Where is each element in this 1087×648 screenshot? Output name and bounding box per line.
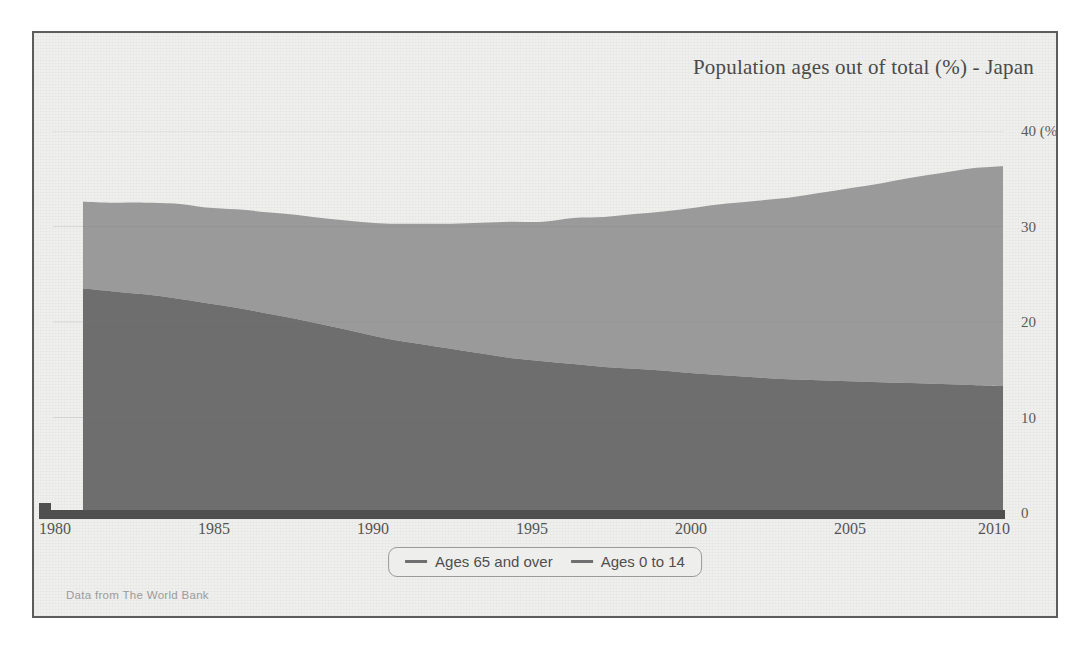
source-attribution: Data from The World Bank: [66, 589, 209, 601]
x-axis-baseline: [39, 510, 1005, 519]
y-axis-tick: 0: [1021, 505, 1029, 522]
stacked-area-plot: [51, 131, 1006, 513]
chart-title: Population ages out of total (%) - Japan: [693, 55, 1034, 80]
x-axis-tick: 1990: [357, 520, 389, 538]
legend-item-ages-0-to-14[interactable]: Ages 0 to 14: [571, 553, 685, 570]
x-axis: 1980 1985 1990 1995 2000 2005 2010: [34, 520, 1056, 544]
legend-item-label: Ages 0 to 14: [601, 553, 685, 570]
legend-line-icon: [571, 560, 593, 563]
chart-legend: Ages 65 and over Ages 0 to 14: [388, 547, 702, 577]
y-axis-tick: 40 (%): [1021, 123, 1058, 140]
x-axis-tick: 2000: [675, 520, 707, 538]
legend-line-icon: [405, 560, 427, 563]
chart-frame: Population ages out of total (%) - Japan…: [32, 31, 1058, 618]
plot-area: [51, 131, 1006, 513]
legend-item-label: Ages 65 and over: [435, 553, 553, 570]
y-axis-tick: 10: [1021, 409, 1036, 426]
x-axis-tick: 2005: [834, 520, 866, 538]
y-axis: 40 (%) 30 20 10 0: [1009, 131, 1058, 513]
screenshot-root: Population ages out of total (%) - Japan…: [0, 0, 1087, 648]
y-axis-tick: 30: [1021, 218, 1036, 235]
y-axis-tick: 20: [1021, 314, 1036, 331]
x-axis-tick: 2010: [978, 520, 1010, 538]
legend-item-ages-65-and-over[interactable]: Ages 65 and over: [405, 553, 553, 570]
x-axis-tick: 1985: [198, 520, 230, 538]
x-axis-tick: 1995: [516, 520, 548, 538]
x-axis-tick: 1980: [39, 520, 71, 538]
